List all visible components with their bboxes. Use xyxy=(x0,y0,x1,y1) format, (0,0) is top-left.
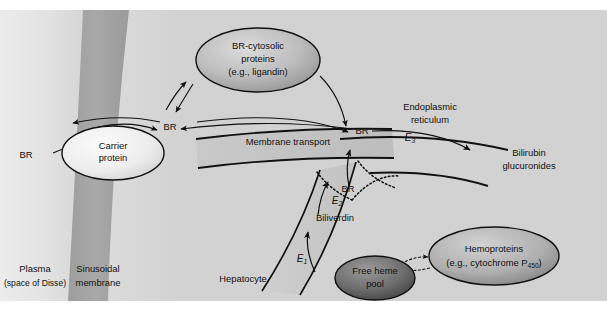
free-heme-pool-label-line2: pool xyxy=(366,278,384,289)
sinusoidal-membrane-label-line2: membrane xyxy=(76,277,121,288)
hemoproteins-subscript: 450 xyxy=(528,262,539,269)
br-er-label: BR xyxy=(355,125,368,136)
enzyme-e2-subscript: 2 xyxy=(337,200,342,207)
diagram-canvas: Carrier protein BR-cytosolic proteins (e… xyxy=(0,0,607,311)
hemoproteins-suffix: ) xyxy=(539,257,542,268)
membrane-transport-label: Membrane transport xyxy=(246,136,331,147)
endoplasmic-reticulum-label-line1: Endoplasmic xyxy=(403,101,457,112)
hemoproteins-node[interactable] xyxy=(429,227,559,285)
br-cytosolic-label-line3: (e.g., ligandin) xyxy=(228,66,287,77)
br-cytosolic-label-line2: proteins xyxy=(241,53,275,64)
free-heme-pool-label-line1: Free heme xyxy=(352,265,397,276)
bilirubin-glucuronides-label-line1: Bilirubin xyxy=(512,147,545,158)
biliverdin-label: Biliverdin xyxy=(316,212,354,223)
bilirubin-metabolism-figure: Carrier protein BR-cytosolic proteins (e… xyxy=(0,10,607,301)
br-cytosolic-label-line1: BR-cytosolic xyxy=(232,40,284,51)
br-biliverdin-product-label: BR xyxy=(341,183,354,194)
enzyme-e1-subscript: 1 xyxy=(303,258,307,265)
bilirubin-glucuronides-label-line2: glucuronides xyxy=(502,160,555,171)
hemoproteins-prefix: (e.g., cytochrome P xyxy=(446,257,527,268)
sinusoidal-membrane-label-line1: Sinusoidal xyxy=(76,263,119,274)
endoplasmic-reticulum-label-line2: reticulum xyxy=(411,114,449,125)
hemoproteins-label-line2: (e.g., cytochrome P450) xyxy=(446,257,541,269)
br-cytosol-label: BR xyxy=(163,121,176,132)
hepatocyte-label: Hepatocyte xyxy=(219,273,266,284)
plasma-label-line1: Plasma xyxy=(19,263,51,274)
hemoproteins-label-line1: Hemoproteins xyxy=(465,243,524,254)
br-plasma-label: BR xyxy=(19,149,32,160)
carrier-protein-label-line2: protein xyxy=(99,152,128,163)
enzyme-e3-subscript: 3 xyxy=(411,137,415,144)
plasma-label-line2: (space of Disse) xyxy=(4,278,66,288)
carrier-protein-label-line1: Carrier xyxy=(99,140,128,151)
